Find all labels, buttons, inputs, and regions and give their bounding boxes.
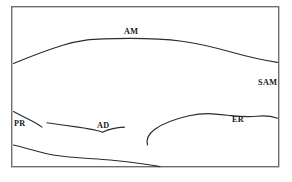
label-sam: SAM bbox=[258, 79, 277, 87]
figure-root: AM SAM PR AD ER bbox=[0, 0, 292, 182]
label-er: ER bbox=[232, 116, 244, 124]
cross-section-diagram bbox=[0, 0, 292, 182]
diagram-frame bbox=[12, 7, 279, 167]
label-pr: PR bbox=[14, 120, 26, 128]
label-ad: AD bbox=[97, 122, 110, 130]
label-am: AM bbox=[124, 28, 138, 36]
